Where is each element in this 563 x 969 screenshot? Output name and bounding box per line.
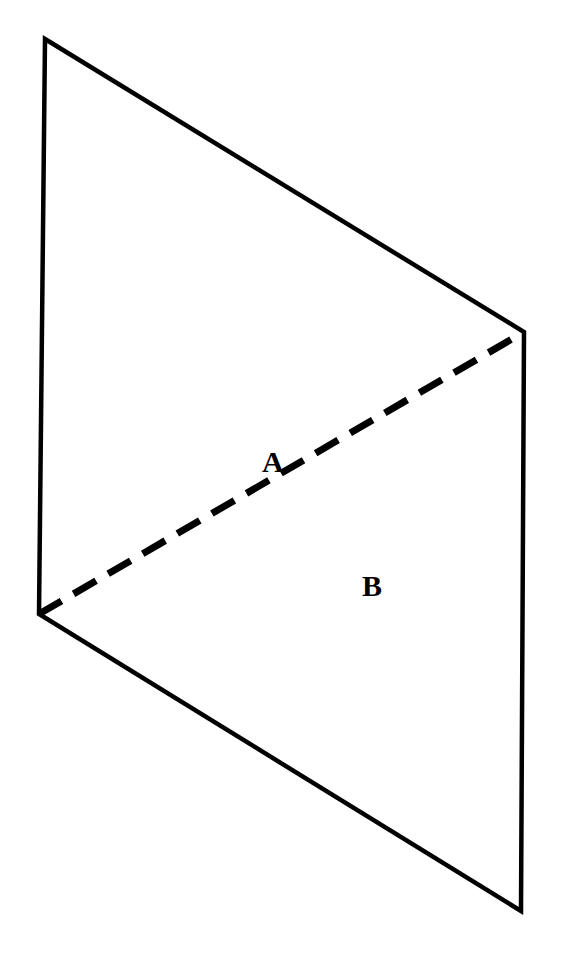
region-label-b: B <box>362 571 382 601</box>
figure-canvas: A B <box>0 0 563 969</box>
region-label-a: A <box>262 447 284 477</box>
geometry-diagram <box>0 0 563 969</box>
diagram-background <box>0 0 563 969</box>
